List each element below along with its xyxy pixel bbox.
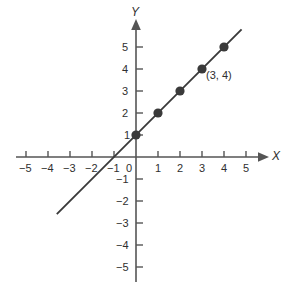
y-tick-label-5: 5 bbox=[122, 42, 128, 53]
y-tick-label-2: 2 bbox=[122, 108, 128, 119]
x-axis-label: X bbox=[272, 150, 280, 162]
y-tick-label-1: 1 bbox=[124, 130, 130, 141]
y-axis-arrowhead bbox=[131, 19, 141, 30]
x-tick-label-2: 2 bbox=[177, 163, 183, 174]
y-tick-label-neg1: −1 bbox=[116, 174, 129, 185]
coordinate-plane-figure: X Y −5 −4 −3 −2 −1 0 1 2 3 4 5 5 4 3 2 1… bbox=[0, 0, 290, 299]
y-tick-label-neg4: −4 bbox=[116, 240, 129, 251]
y-tick-label-neg2: −2 bbox=[116, 196, 129, 207]
y-tick-label-neg5: −5 bbox=[116, 262, 129, 273]
data-point bbox=[153, 108, 162, 117]
x-tick-label-5: 5 bbox=[243, 163, 249, 174]
x-tick-label-neg5: −5 bbox=[19, 163, 32, 174]
data-point bbox=[175, 86, 184, 95]
y-tick-label-neg3: −3 bbox=[116, 218, 129, 229]
plotted-line bbox=[57, 29, 242, 214]
x-tick-label-3: 3 bbox=[199, 163, 205, 174]
y-axis-label: Y bbox=[131, 6, 139, 18]
x-tick-label-neg2: −2 bbox=[85, 163, 98, 174]
point-annotation-3-4: (3, 4) bbox=[206, 70, 232, 81]
x-tick-label-4: 4 bbox=[221, 163, 227, 174]
x-tick-label-neg3: −3 bbox=[63, 163, 76, 174]
y-tick-label-4: 4 bbox=[122, 64, 128, 75]
x-axis-arrowhead bbox=[258, 152, 269, 162]
data-point bbox=[131, 130, 140, 139]
data-point bbox=[219, 42, 228, 51]
y-tick-label-3: 3 bbox=[122, 86, 128, 97]
graph-canvas bbox=[0, 0, 290, 299]
x-tick-label-1: 1 bbox=[155, 163, 161, 174]
x-tick-label-neg4: −4 bbox=[41, 163, 54, 174]
